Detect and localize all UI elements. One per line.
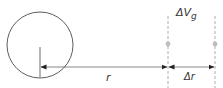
diagram-canvas: r Δr ΔVg xyxy=(0,0,223,88)
delta-r-label: Δr xyxy=(183,71,196,82)
delta-v-text: ΔV xyxy=(175,6,193,19)
outer-point-dot xyxy=(213,42,218,47)
radius-label: r xyxy=(106,71,112,84)
delta-v-subscript: g xyxy=(191,11,197,21)
delta-vg-label: ΔVg xyxy=(175,6,197,21)
inner-point-dot xyxy=(166,42,171,47)
